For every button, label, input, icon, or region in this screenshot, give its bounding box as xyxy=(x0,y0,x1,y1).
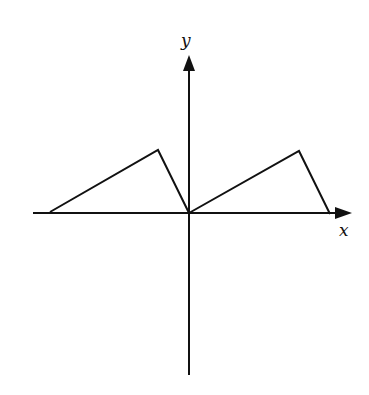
y-axis-arrow-icon xyxy=(183,55,195,71)
graph-canvas: y x xyxy=(0,0,369,395)
left-sawtooth-curve xyxy=(50,150,189,213)
y-axis-label: y xyxy=(180,30,191,50)
x-axis-label: x xyxy=(339,220,349,240)
x-axis-arrow-icon xyxy=(335,207,352,219)
right-sawtooth-curve xyxy=(189,151,330,214)
